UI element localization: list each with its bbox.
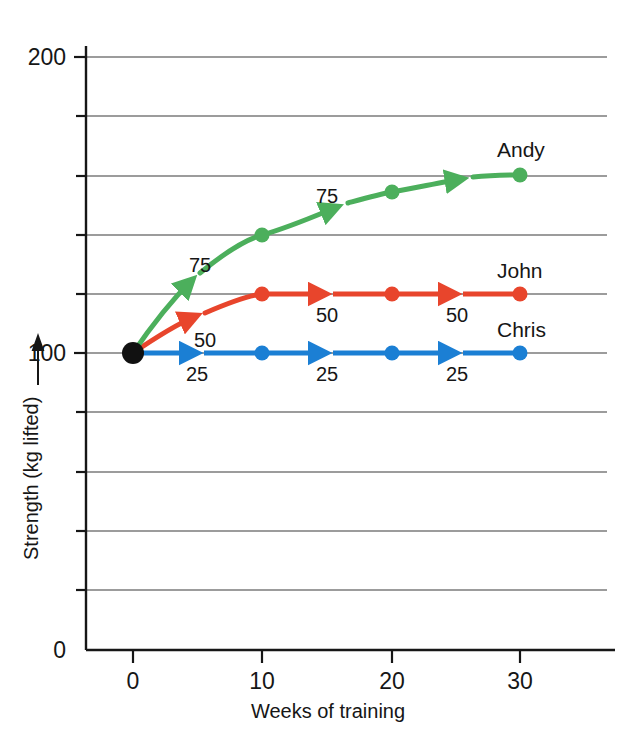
data-point	[385, 287, 400, 302]
series-andy: Andy 75 75	[133, 138, 545, 353]
data-point	[513, 168, 528, 183]
y-tick-marks	[74, 57, 86, 590]
data-point	[513, 287, 528, 302]
increment-label-chris: 25	[316, 363, 338, 385]
series-label-john: John	[497, 259, 543, 282]
series-label-chris: Chris	[497, 318, 546, 341]
series-andy-line	[392, 179, 462, 192]
y-axis-title: Strength (kg lifted)	[20, 397, 42, 560]
increment-label-john: 50	[194, 329, 216, 351]
series-andy-line	[262, 207, 337, 235]
increment-label-chris: 25	[446, 363, 468, 385]
axis-lines	[86, 46, 615, 650]
data-point	[385, 185, 400, 200]
increment-label-chris: 25	[186, 363, 208, 385]
data-point	[255, 346, 270, 361]
x-tick-label-20: 20	[379, 668, 405, 694]
x-tick-label-30: 30	[507, 668, 533, 694]
increment-label-john: 50	[316, 304, 338, 326]
y-tick-label-100: 100	[28, 340, 66, 366]
x-tick-label-10: 10	[249, 668, 275, 694]
increment-label-john: 50	[446, 304, 468, 326]
data-point	[255, 228, 270, 243]
origin-start-marker	[122, 342, 144, 364]
y-tick-label-0: 0	[53, 637, 66, 663]
series-label-andy: Andy	[497, 138, 545, 161]
strength-training-line-chart: 200 100 0 0 10 20 30 Weeks of training S…	[0, 0, 639, 737]
series-andy-line	[133, 280, 192, 353]
increment-label-andy: 75	[189, 254, 211, 276]
increment-label-andy: 75	[316, 185, 338, 207]
data-point	[513, 346, 528, 361]
data-point	[385, 346, 400, 361]
x-tick-label-0: 0	[127, 668, 140, 694]
series-john-line	[205, 294, 262, 313]
y-axis-title-group: Strength (kg lifted)	[20, 336, 43, 560]
chart-figure: 200 100 0 0 10 20 30 Weeks of training S…	[0, 0, 639, 737]
y-tick-label-200: 200	[28, 44, 66, 70]
data-point	[255, 287, 270, 302]
x-axis-title: Weeks of training	[251, 700, 405, 722]
x-tick-marks	[133, 650, 520, 663]
